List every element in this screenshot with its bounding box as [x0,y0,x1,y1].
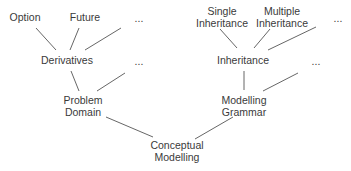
node-label: Inheritance [196,17,248,29]
node-label: Option [10,11,41,23]
edge-etc2-to-problem-domain [97,73,125,91]
node-label: ... [135,12,144,24]
node-label: Future [70,11,100,23]
node-label: ... [135,55,144,67]
node-etc3: ... [334,12,343,24]
node-inheritance: Inheritance [217,54,269,66]
node-future: Future [70,11,100,23]
edge-future-to-derivatives [70,28,79,50]
edge-derivatives-to-problem-domain [71,71,79,91]
node-label: ... [312,55,321,67]
node-label: Conceptual [150,139,203,151]
node-label: ... [334,12,343,24]
node-label: Problem [63,94,102,106]
node-label: Modelling [222,94,267,106]
edge-single-inheritance-to-inheritance [220,29,237,48]
node-problem-domain: ProblemDomain [63,94,102,118]
edge-etc1-to-derivatives [85,28,121,50]
edge-problem-domain-to-conceptual-modelling [106,117,153,137]
node-label: Inheritance [256,17,308,29]
node-label: Single [196,5,248,17]
node-label: Multiple [256,5,308,17]
node-conceptual-modelling: ConceptualModelling [150,139,203,163]
node-etc4: ... [312,55,321,67]
edge-etc4-to-modelling-grammar [263,73,298,91]
node-etc1: ... [135,12,144,24]
node-label: Grammar [222,106,267,118]
node-derivatives: Derivatives [41,54,93,66]
node-option: Option [10,11,41,23]
node-label: Domain [63,106,102,118]
node-etc2: ... [135,55,144,67]
edge-option-to-derivatives [36,28,56,50]
node-label: Inheritance [217,54,269,66]
node-label: Derivatives [41,54,93,66]
edge-etc3-to-inheritance [268,27,316,50]
node-modelling-grammar: ModellingGrammar [222,94,267,118]
edge-multiple-inheritance-to-inheritance [254,29,270,48]
edge-modelling-grammar-to-conceptual-modelling [195,117,233,139]
node-label: Modelling [150,151,203,163]
node-single-inheritance: SingleInheritance [196,5,248,29]
node-multiple-inheritance: MultipleInheritance [256,5,308,29]
